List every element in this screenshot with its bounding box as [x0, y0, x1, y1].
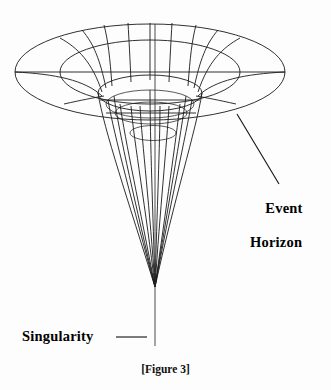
event-horizon-leader-line: [237, 114, 279, 184]
singularity-label: Singularity: [22, 328, 94, 345]
funnel-wall-meridian: [155, 106, 169, 287]
funnel-wall-meridians: [98, 90, 202, 287]
funnel-wall-meridian: [120, 104, 155, 287]
rim-meridian-curve: [104, 25, 112, 86]
event-horizon-label: Event Horizon: [250, 183, 303, 286]
rim-meridian-curve: [188, 25, 196, 86]
throat-ring-ellipse: [130, 126, 176, 141]
rim-meridian-curve: [128, 23, 131, 82]
rim-meridian-curve: [169, 23, 172, 82]
funnel-wall-meridian: [131, 106, 155, 287]
figure-caption: [Figure 3]: [0, 363, 331, 375]
funnel-wall-left-outer: [98, 93, 155, 287]
funnel-wall-meridian: [155, 100, 192, 287]
funnel-wall-meridian: [108, 100, 155, 287]
rim-meridian-curve: [64, 96, 104, 104]
event-horizon-label-line2: Horizon: [250, 234, 303, 251]
event-horizon-label-line1: Event: [265, 200, 302, 216]
figure-container: Event Horizon Singularity [Figure 3]: [0, 0, 331, 390]
funnel-wall-meridian: [114, 96, 155, 287]
rim-meridian-curve: [196, 96, 236, 104]
